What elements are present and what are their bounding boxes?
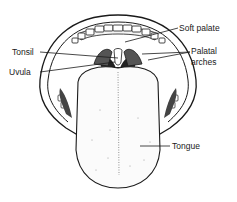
label-tongue: Tongue — [172, 141, 200, 151]
label-palatal-arches-line2: arches — [191, 57, 217, 67]
label-palatal-arches-line1: Palatal — [191, 46, 217, 56]
label-tonsil: Tonsil — [12, 47, 34, 57]
label-uvula: Uvula — [9, 67, 31, 77]
label-soft-palate: Soft palate — [179, 23, 220, 33]
uvula-shape — [114, 49, 122, 66]
